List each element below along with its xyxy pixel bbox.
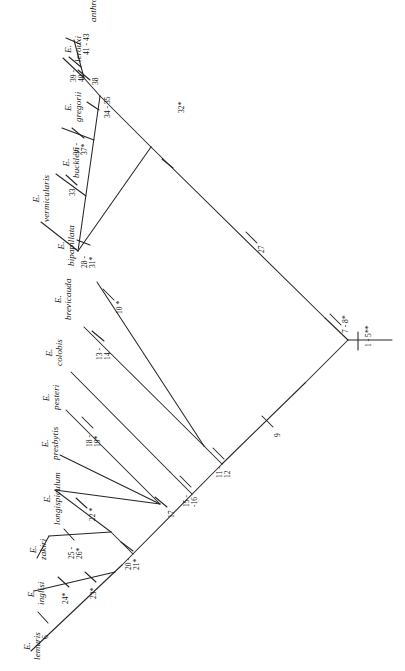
branch-colobis bbox=[71, 372, 170, 472]
taxon-species: vermicularis bbox=[41, 175, 51, 222]
node-label-13-14: 13 - 14 bbox=[96, 348, 111, 360]
node-label-line: -16 bbox=[191, 495, 199, 507]
taxon-genus: E. bbox=[22, 632, 32, 660]
node-label-10: 10 * bbox=[116, 301, 124, 314]
node-label-line: 34 - 35 bbox=[104, 96, 112, 118]
node-label-7-8: 7 - 8* bbox=[342, 315, 350, 333]
node-label-line: 31* bbox=[89, 256, 97, 268]
taxon-genus: E. bbox=[41, 385, 51, 410]
node-label-line: 17 bbox=[168, 510, 176, 518]
branch-bipapillata bbox=[97, 282, 204, 446]
node-label-20-21: 20 - 21* bbox=[125, 558, 140, 570]
node-label-27: 27 bbox=[258, 245, 266, 253]
taxon-label-gregorii: E. gregorii bbox=[63, 92, 83, 122]
taxon-genus: E. bbox=[28, 539, 38, 560]
taxon-label-colobis: E. colobis bbox=[44, 339, 64, 366]
node-label-line: 41 - 43 bbox=[83, 33, 91, 55]
taxon-species: presbytis bbox=[50, 427, 60, 460]
tick-34-35 bbox=[87, 102, 99, 110]
node-label-line: 23* bbox=[90, 588, 98, 599]
taxon-species: colobis bbox=[54, 339, 64, 366]
tick-18-19 bbox=[82, 417, 93, 428]
branch-27-long bbox=[151, 147, 325, 318]
node-label-line: 10 * bbox=[116, 301, 124, 314]
node-label-9: 9 bbox=[274, 433, 282, 437]
taxon-genus: E. bbox=[31, 175, 41, 222]
taxon-label-lerouxi: E. lerouxi bbox=[63, 36, 83, 62]
tick-20-21 bbox=[121, 542, 133, 551]
node-label-line: 26* bbox=[76, 547, 84, 559]
node-label-line: 21* bbox=[133, 558, 141, 570]
tick-32 bbox=[162, 159, 173, 168]
node-label-23: 23* bbox=[90, 588, 98, 599]
branch-2526-term bbox=[49, 532, 111, 536]
taxon-genus: E. bbox=[42, 472, 52, 525]
node-label-32: 32* bbox=[178, 102, 186, 113]
taxon-genus: E. bbox=[78, 0, 88, 22]
node-label-line: 6 bbox=[42, 635, 50, 639]
taxon-species: gregorii bbox=[73, 92, 83, 122]
tick-9 bbox=[262, 416, 273, 427]
taxon-label-anthropopitheci: E. anthropopitheci bbox=[78, 0, 98, 22]
taxon-species: anthropopitheci bbox=[88, 0, 98, 22]
taxon-genus: E. bbox=[63, 92, 73, 122]
node-label-line: 24* bbox=[62, 593, 70, 604]
node-label-39-40: 39 - 40 bbox=[70, 70, 85, 82]
taxon-genus: E. bbox=[44, 339, 54, 366]
taxon-genus: E. bbox=[40, 427, 50, 460]
tick-15-16 bbox=[180, 476, 191, 487]
taxon-genus: E. bbox=[53, 278, 63, 320]
branch-17-presbytis bbox=[60, 455, 160, 504]
node-label-36-37: 36 - 37* bbox=[73, 143, 88, 155]
taxon-label-brevicauda: E. brevicauda bbox=[53, 278, 73, 320]
node-label-28-31: 28 - 31* bbox=[81, 256, 96, 268]
node-label-line: 38 bbox=[92, 77, 100, 85]
node-label-17: 17 bbox=[168, 510, 176, 518]
node-label-1-5: 1 - 5** bbox=[365, 325, 373, 347]
taxon-label-longispiculum: E. longispiculum bbox=[42, 472, 62, 525]
taxon-species: zakiri bbox=[38, 539, 48, 560]
taxon-label-lemuris: E. lemuris bbox=[22, 632, 42, 660]
branch-gregorii bbox=[62, 128, 94, 140]
taxon-species: longispiculum bbox=[52, 472, 62, 525]
tick-6 bbox=[38, 612, 48, 623]
node-label-line: 22 * bbox=[89, 508, 97, 521]
taxon-species: pesteri bbox=[51, 385, 61, 410]
taxon-genus: E. bbox=[26, 582, 36, 605]
node-label-6: 6 bbox=[42, 635, 50, 639]
branch-32-to-28-31 bbox=[78, 147, 151, 251]
branch-15-16-up bbox=[170, 472, 192, 494]
node-label-41-43: 41 - 43 bbox=[83, 33, 91, 55]
taxon-label-vermicularis: E. vermicularis bbox=[31, 175, 51, 222]
taxon-species: inglisi bbox=[36, 582, 46, 605]
taxon-species: brevicauda bbox=[63, 278, 73, 320]
taxon-label-presbytis: E. presbytis bbox=[40, 427, 60, 460]
taxon-genus: E. bbox=[63, 36, 73, 62]
tick-36-37 bbox=[72, 128, 84, 138]
node-label-line: 33 bbox=[69, 188, 77, 196]
taxon-label-pesteri: E. pesteri bbox=[41, 385, 61, 410]
taxon-genus: E. bbox=[56, 225, 66, 266]
node-label-line: 7 - 8* bbox=[342, 315, 350, 333]
branch-9 bbox=[222, 383, 305, 464]
node-label-line: 40 bbox=[78, 70, 86, 82]
node-label-15-16: 15 - -16 bbox=[183, 495, 198, 507]
node-label-25-26: 25 - 26* bbox=[68, 547, 83, 559]
node-label-line: 14 bbox=[104, 348, 112, 360]
branch-basal-lower bbox=[305, 340, 348, 383]
node-label-24: 24* bbox=[62, 593, 70, 604]
branch-inglisi bbox=[34, 572, 115, 591]
node-label-line: 32* bbox=[178, 102, 186, 113]
taxon-label-zakiri: E. zakiri bbox=[28, 539, 48, 560]
branch-brevicauda bbox=[84, 327, 204, 446]
branch-17-pesteri bbox=[66, 410, 160, 504]
taxon-genus: E. bbox=[61, 147, 71, 178]
node-label-line: 9 bbox=[274, 433, 282, 437]
node-label-18-19: 18 - 19* bbox=[86, 435, 101, 447]
cladogram-figure: E. anthropopitheci E. lerouxi E. gregori… bbox=[0, 0, 405, 671]
node-label-34-35: 34 - 35 bbox=[104, 96, 112, 118]
taxon-label-bipapillata: E. bipapillata bbox=[56, 225, 76, 266]
node-label-line: 27 bbox=[258, 245, 266, 253]
node-label-line: 12 bbox=[224, 466, 232, 478]
node-label-33: 33 bbox=[69, 188, 77, 196]
